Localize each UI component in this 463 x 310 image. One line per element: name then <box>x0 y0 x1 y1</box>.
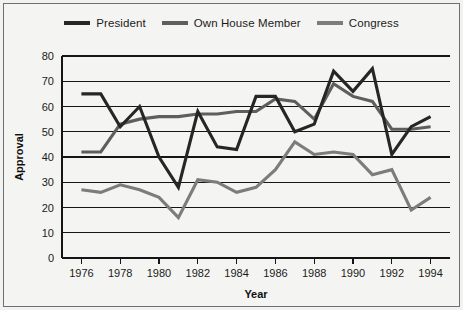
x-tick-labels-group: 1976197819801982198419861988199019921994 <box>69 267 443 279</box>
y-tick-label: 60 <box>42 101 54 113</box>
chart-figure: President Own House Member Congress 0102… <box>0 0 463 310</box>
y-tick-labels-group: 01020304050607080 <box>42 50 54 264</box>
x-tick-marks-group <box>81 258 430 264</box>
x-tick-label: 1988 <box>302 267 326 279</box>
x-tick-label: 1986 <box>263 267 287 279</box>
series-group <box>81 69 430 218</box>
y-axis-title: Approval <box>13 133 25 181</box>
y-tick-label: 20 <box>42 202 54 214</box>
x-tick-label: 1990 <box>341 267 365 279</box>
x-tick-label: 1994 <box>418 267 442 279</box>
y-tick-label: 10 <box>42 227 54 239</box>
plot-area: 01020304050607080 1976197819801982198419… <box>0 0 463 310</box>
x-tick-label: 1978 <box>108 267 132 279</box>
x-axis-title: Year <box>244 288 268 300</box>
series-line-congress <box>81 142 430 218</box>
y-tick-label: 30 <box>42 176 54 188</box>
x-tick-label: 1984 <box>224 267 248 279</box>
x-tick-label: 1992 <box>380 267 404 279</box>
x-tick-label: 1976 <box>69 267 93 279</box>
y-tick-label: 70 <box>42 75 54 87</box>
y-tick-label: 80 <box>42 50 54 62</box>
y-tick-label: 50 <box>42 126 54 138</box>
y-tick-label: 0 <box>48 252 54 264</box>
chart-svg: 01020304050607080 1976197819801982198419… <box>0 0 463 310</box>
x-tick-label: 1982 <box>186 267 210 279</box>
x-tick-label: 1980 <box>147 267 171 279</box>
y-tick-label: 40 <box>42 151 54 163</box>
series-line-president <box>81 69 430 188</box>
